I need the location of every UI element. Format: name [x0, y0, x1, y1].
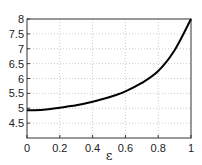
y-tick-label: 7.5 — [9, 28, 24, 40]
grid-lines — [27, 19, 191, 138]
y-tick-label: 6 — [18, 73, 24, 85]
x-tick-label: 0.8 — [151, 142, 166, 154]
x-tick-label: 0.6 — [118, 142, 133, 154]
y-tick-label: 4.5 — [9, 117, 24, 129]
x-tick-label: 0.2 — [52, 142, 67, 154]
y-tick-label: 6.5 — [9, 58, 24, 70]
x-tick-label: 0.4 — [85, 142, 100, 154]
data-series-line — [27, 19, 191, 110]
x-tick-label: 1 — [188, 142, 194, 154]
y-tick-label: 7 — [18, 43, 24, 55]
y-tick-label: 8 — [18, 13, 24, 25]
x-tick-label: 0 — [24, 142, 30, 154]
y-tick-label: 5.5 — [9, 87, 24, 99]
line-chart: 00.20.40.60.81 4.555.566.577.58 ε — [0, 0, 202, 165]
x-axis-label: ε — [106, 148, 113, 163]
y-tick-label: 5 — [18, 102, 24, 114]
